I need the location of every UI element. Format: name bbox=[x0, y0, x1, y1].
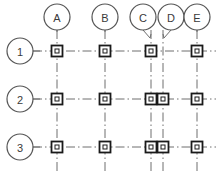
column-outline bbox=[52, 46, 63, 57]
column-outline bbox=[158, 142, 169, 153]
grid-bubble-A[interactable]: A bbox=[44, 4, 70, 30]
column-outline bbox=[146, 142, 157, 153]
grid-bubble-label: B bbox=[101, 12, 108, 24]
grid-bubble-3[interactable]: 3 bbox=[7, 134, 33, 160]
column-marker[interactable] bbox=[158, 142, 169, 153]
column-marker[interactable] bbox=[100, 46, 111, 57]
column-marker[interactable] bbox=[158, 94, 169, 105]
grid-bubble-label: E bbox=[193, 12, 200, 24]
column-outline bbox=[52, 142, 63, 153]
column-marker[interactable] bbox=[192, 142, 203, 153]
grid-leader-D bbox=[163, 30, 171, 38]
column-marker[interactable] bbox=[52, 46, 63, 57]
grid-bubble-label: C bbox=[139, 12, 147, 24]
column-marker[interactable] bbox=[146, 46, 157, 57]
column-marker[interactable] bbox=[100, 142, 111, 153]
grid-bubbles-layer: ABCDE123 bbox=[7, 4, 210, 160]
grid-bubble-C[interactable]: C bbox=[130, 4, 156, 30]
grid-bubble-2[interactable]: 2 bbox=[7, 86, 33, 112]
column-outline bbox=[146, 46, 157, 57]
column-outline bbox=[192, 46, 203, 57]
column-outline bbox=[100, 142, 111, 153]
column-marker[interactable] bbox=[192, 46, 203, 57]
grid-bubble-label: 3 bbox=[17, 142, 23, 154]
grid-bubble-D[interactable]: D bbox=[158, 4, 184, 30]
column-outline bbox=[192, 142, 203, 153]
grid-bubble-E[interactable]: E bbox=[184, 4, 210, 30]
column-marker[interactable] bbox=[100, 94, 111, 105]
column-marker[interactable] bbox=[146, 94, 157, 105]
column-outline bbox=[100, 94, 111, 105]
column-outline bbox=[146, 94, 157, 105]
grid-bubble-label: A bbox=[53, 12, 61, 24]
grid-bubble-label: 1 bbox=[17, 46, 23, 58]
grid-bubble-1[interactable]: 1 bbox=[7, 38, 33, 64]
drawing-canvas: ABCDE123 bbox=[0, 0, 223, 171]
column-grid-drawing: ABCDE123 bbox=[0, 0, 223, 171]
column-marker[interactable] bbox=[192, 94, 203, 105]
column-outline bbox=[52, 94, 63, 105]
grid-bubble-B[interactable]: B bbox=[92, 4, 118, 30]
grid-leader-C bbox=[143, 30, 151, 38]
grid-bubble-label: D bbox=[167, 12, 175, 24]
column-outline bbox=[100, 46, 111, 57]
column-marker[interactable] bbox=[52, 142, 63, 153]
column-marker[interactable] bbox=[146, 142, 157, 153]
column-outline bbox=[158, 94, 169, 105]
column-outline bbox=[192, 94, 203, 105]
column-marker[interactable] bbox=[52, 94, 63, 105]
grid-bubble-label: 2 bbox=[17, 94, 23, 106]
